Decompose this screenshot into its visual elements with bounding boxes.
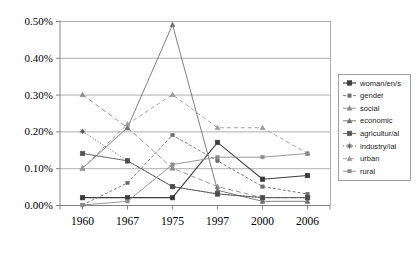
data-point (125, 195, 130, 200)
line-chart: 0.50%0.40%0.30%0.20%0.10%0.00% 196019671… (0, 0, 420, 259)
legend-label: social (360, 104, 380, 113)
data-point (171, 163, 174, 166)
data-point (126, 181, 129, 184)
data-point (216, 155, 219, 158)
legend-label: woman/en/s (359, 79, 401, 88)
y-axis-tick-label: 0.50% (25, 15, 53, 27)
data-point (171, 133, 174, 136)
legend-label: rural (360, 167, 376, 176)
legend-marker-icon (347, 81, 352, 86)
legend-label: urban (360, 154, 379, 163)
data-point (305, 173, 310, 178)
data-point (306, 152, 309, 155)
legend-label: economic (360, 116, 393, 125)
data-point (261, 155, 264, 158)
legend-label: agricultur/al (360, 129, 400, 138)
y-axis-tick-label: 0.00% (25, 199, 53, 211)
data-point (125, 158, 130, 163)
y-axis-tick-label: 0.10% (25, 162, 53, 174)
x-axis-tick-label: 2006 (296, 215, 319, 227)
data-point (260, 177, 265, 182)
data-point (170, 195, 175, 200)
legend-label: gender (360, 91, 384, 100)
x-axis-tick-label: 1975 (161, 215, 184, 227)
data-point (80, 151, 85, 156)
data-point (305, 195, 310, 200)
data-point (215, 140, 220, 145)
y-axis-tick-label: 0.40% (25, 52, 53, 64)
data-point (216, 159, 219, 162)
data-point (170, 184, 175, 189)
data-point (215, 191, 220, 196)
legend-marker-icon (347, 131, 352, 136)
x-axis-tick-label: 1960 (71, 215, 94, 227)
data-point (80, 129, 85, 134)
legend-marker-icon (347, 143, 352, 148)
legend-marker-icon (348, 94, 351, 97)
x-axis-tick-label: 2000 (251, 215, 274, 227)
data-point (260, 195, 265, 200)
y-axis-tick-label: 0.30% (25, 89, 53, 101)
chart-legend: woman/en/sgendersocialeconomicagricultur… (339, 75, 411, 181)
legend-marker-icon (348, 170, 351, 173)
x-axis-tick-label: 1967 (116, 215, 139, 227)
x-axis-tick-label: 1997 (206, 215, 229, 227)
data-point (126, 200, 129, 203)
data-point (81, 203, 84, 206)
data-point (261, 185, 264, 188)
legend-label: industry/ial (360, 142, 397, 151)
y-axis-tick-label: 0.20% (25, 125, 53, 137)
data-point (80, 195, 85, 200)
